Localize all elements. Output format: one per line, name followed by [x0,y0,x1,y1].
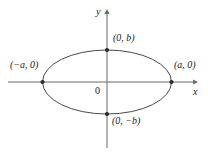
vertex-dot-right [169,80,173,84]
label-x-axis: x [193,87,197,97]
label-y-axis: y [96,7,100,17]
label-left-vertex: (−a, 0) [10,60,38,70]
label-top-vertex: (0, b) [113,33,135,43]
ellipse-figure: (0, b) (0, −b) (−a, 0) (a, 0) x y 0 [0,0,208,154]
label-origin: 0 [95,86,100,96]
vertex-dot-bottom [105,112,109,116]
ellipse-diagram-canvas [0,0,208,154]
label-bottom-vertex: (0, −b) [112,116,140,126]
vertex-dot-left [40,80,44,84]
label-right-vertex: (a, 0) [174,60,196,70]
vertex-dot-top [105,48,109,52]
